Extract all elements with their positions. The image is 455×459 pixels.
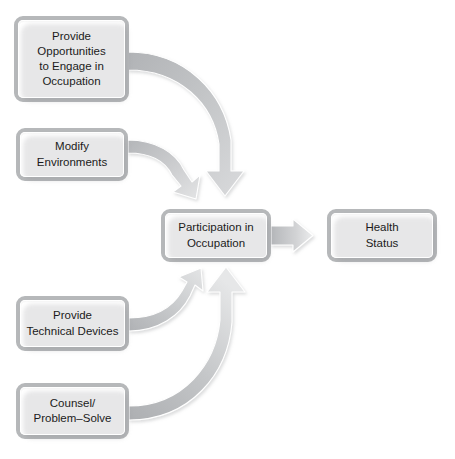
node-participation-in-occupation-label: Participation inOccupation bbox=[174, 220, 257, 250]
node-modify-environments-label: ModifyEnvironments bbox=[33, 139, 111, 169]
edge-devices-to-participation bbox=[129, 268, 203, 331]
edge-participation-to-health bbox=[271, 219, 313, 252]
node-modify-environments: ModifyEnvironments bbox=[16, 128, 128, 181]
node-counsel-problem-solve: Counsel/Problem–Solve bbox=[16, 383, 129, 439]
diagram-canvas: ProvideOpportunitiesto Engage inOccupati… bbox=[0, 0, 455, 459]
edge-counsel-to-participation bbox=[129, 267, 245, 420]
node-health-status: HealthStatus bbox=[327, 209, 437, 262]
node-provide-opportunities: ProvideOpportunitiesto Engage inOccupati… bbox=[14, 16, 129, 102]
node-provide-technical-devices-label: ProvideTechnical Devices bbox=[22, 308, 122, 338]
node-participation-in-occupation: Participation inOccupation bbox=[161, 209, 271, 262]
node-health-status-label: HealthStatus bbox=[361, 220, 402, 250]
node-counsel-problem-solve-label: Counsel/Problem–Solve bbox=[30, 396, 116, 426]
node-provide-technical-devices: ProvideTechnical Devices bbox=[16, 296, 129, 351]
node-provide-opportunities-label: ProvideOpportunitiesto Engage inOccupati… bbox=[33, 29, 109, 90]
edge-opportunities-to-participation bbox=[128, 52, 244, 196]
edge-modify-to-participation bbox=[128, 140, 200, 199]
